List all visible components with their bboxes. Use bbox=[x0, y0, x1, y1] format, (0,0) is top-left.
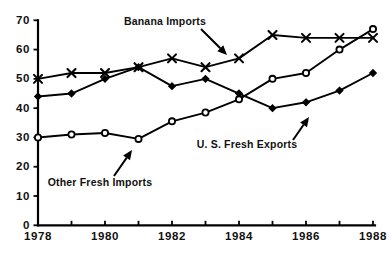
data-point bbox=[202, 76, 209, 83]
marker-open-circle bbox=[202, 109, 208, 115]
y-axis-tick-label: 60 bbox=[16, 43, 30, 55]
y-axis-tick-label: 30 bbox=[16, 131, 30, 143]
y-axis-tick-label: 20 bbox=[16, 160, 30, 172]
data-point bbox=[35, 93, 42, 100]
y-axis-tick-label: 50 bbox=[16, 72, 30, 84]
marker-open-circle bbox=[169, 118, 175, 124]
data-point bbox=[102, 130, 108, 136]
series-polyline bbox=[38, 35, 373, 79]
x-axis-tick-label: 1988 bbox=[359, 230, 387, 242]
data-point bbox=[370, 26, 376, 32]
marker-filled-diamond bbox=[35, 93, 42, 100]
annotation: U. S. Fresh Exports bbox=[197, 117, 309, 150]
x-axis-tick-label: 1978 bbox=[24, 230, 52, 242]
annotation-arrow-shaft bbox=[114, 158, 127, 176]
x-axis: 197819801982198419861988 bbox=[24, 221, 387, 243]
y-axis-tick-label: 70 bbox=[16, 14, 30, 26]
y-axis-tick-label: 0 bbox=[23, 219, 30, 231]
data-point bbox=[236, 96, 242, 102]
data-point bbox=[135, 136, 141, 142]
data-point bbox=[303, 99, 310, 106]
data-point bbox=[202, 109, 208, 115]
marker-open-circle bbox=[336, 46, 342, 52]
data-point bbox=[269, 76, 275, 82]
annotation-label: Banana Imports bbox=[124, 15, 206, 27]
chart-container: 010203040506070 197819801982198419861988… bbox=[0, 0, 392, 264]
marker-open-circle bbox=[102, 130, 108, 136]
annotation: Other Fresh Imports bbox=[48, 150, 153, 188]
marker-filled-diamond bbox=[370, 70, 377, 77]
x-axis-tick-label: 1982 bbox=[158, 230, 186, 242]
data-point bbox=[169, 118, 175, 124]
annotation-arrow-shaft bbox=[293, 125, 304, 140]
marker-open-circle bbox=[370, 26, 376, 32]
data-point bbox=[303, 70, 309, 76]
series-other-fresh-imports bbox=[35, 26, 376, 142]
y-axis: 010203040506070 bbox=[16, 14, 39, 231]
x-axis-tick-label: 1984 bbox=[225, 230, 253, 242]
data-point bbox=[35, 134, 41, 140]
annotation-arrow-shaft bbox=[201, 29, 220, 48]
marker-open-circle bbox=[236, 96, 242, 102]
marker-filled-diamond bbox=[336, 87, 343, 94]
marker-filled-diamond bbox=[269, 105, 276, 112]
annotation-arrow-head bbox=[123, 150, 132, 160]
annotation-label: U. S. Fresh Exports bbox=[197, 138, 298, 150]
marker-filled-diamond bbox=[202, 76, 209, 83]
marker-open-circle bbox=[135, 136, 141, 142]
data-point bbox=[370, 70, 377, 77]
annotation: Banana Imports bbox=[124, 15, 227, 55]
annotation-arrow-head bbox=[300, 117, 309, 127]
marker-open-circle bbox=[35, 134, 41, 140]
marker-open-circle bbox=[269, 76, 275, 82]
y-axis-tick-label: 40 bbox=[16, 102, 30, 114]
marker-filled-diamond bbox=[303, 99, 310, 106]
data-point bbox=[269, 105, 276, 112]
annotation-layer: Banana ImportsOther Fresh ImportsU. S. F… bbox=[48, 15, 309, 188]
data-point bbox=[68, 90, 75, 97]
marker-open-circle bbox=[303, 70, 309, 76]
annotation-label: Other Fresh Imports bbox=[48, 176, 153, 188]
line-chart-svg: 010203040506070 197819801982198419861988… bbox=[0, 0, 392, 264]
series-polyline bbox=[38, 29, 373, 139]
series-layer bbox=[34, 26, 377, 142]
marker-filled-diamond bbox=[68, 90, 75, 97]
data-point bbox=[336, 46, 342, 52]
data-point bbox=[68, 131, 74, 137]
marker-open-circle bbox=[68, 131, 74, 137]
y-axis-tick-label: 10 bbox=[16, 190, 30, 202]
data-point bbox=[336, 87, 343, 94]
series-u-s-fresh-exports bbox=[35, 64, 377, 112]
x-axis-tick-label: 1986 bbox=[292, 230, 320, 242]
x-axis-tick-label: 1980 bbox=[91, 230, 119, 242]
